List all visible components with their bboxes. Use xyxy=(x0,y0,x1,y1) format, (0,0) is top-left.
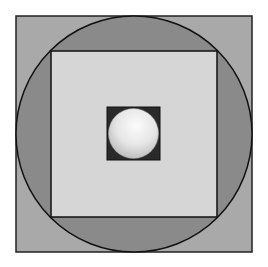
nested-shapes-diagram xyxy=(0,0,268,267)
sphere xyxy=(109,109,159,159)
